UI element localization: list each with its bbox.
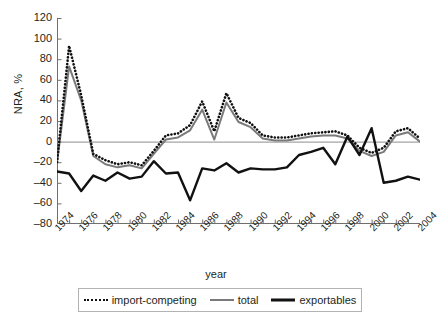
x-axis-tick-labels: 1974197619781980198219841986198819901992… (57, 226, 437, 270)
y-axis-tick-labels: 120100806040200–20–40–60–80 (14, 18, 52, 224)
chart-legend: import-competingtotalexportables (78, 288, 362, 312)
y-tick-label: 40 (18, 94, 52, 105)
legend-label: exportables (299, 295, 356, 306)
plot-area (57, 18, 420, 224)
legend-label: import-competing (112, 295, 197, 306)
legend-item-total[interactable]: total (210, 295, 259, 306)
legend-label: total (238, 295, 259, 306)
x-axis-title: year (0, 268, 432, 280)
y-tick-label: 80 (18, 53, 52, 64)
y-tick-label: –60 (18, 197, 52, 208)
y-tick-label: 20 (18, 115, 52, 126)
y-tick-label: –40 (18, 177, 52, 188)
y-tick-label: 120 (18, 12, 52, 23)
legend-item-exportables[interactable]: exportables (271, 295, 356, 306)
y-tick-label: –20 (18, 156, 52, 167)
solid-gray-line-icon (210, 296, 234, 304)
dotted-line-icon (84, 296, 108, 304)
y-tick-label: 0 (18, 136, 52, 147)
series-line-import-competing (57, 46, 420, 165)
y-tick-label: 100 (18, 33, 52, 44)
plot-svg (57, 18, 420, 224)
y-tick-label: 60 (18, 74, 52, 85)
series-line-exportables (57, 128, 420, 200)
legend-item-import-competing[interactable]: import-competing (84, 295, 197, 306)
y-tick-label: –80 (18, 218, 52, 229)
solid-black-line-icon (271, 296, 295, 304)
